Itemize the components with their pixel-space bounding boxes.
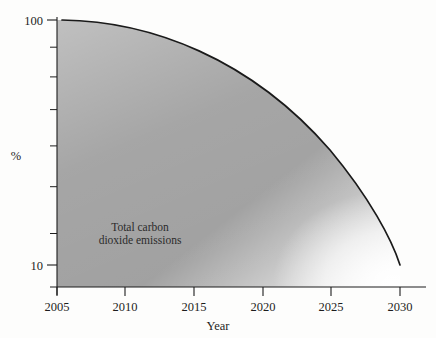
series-annotation-line2: dioxide emissions [99,234,182,246]
x-tick-label-2020: 2020 [251,300,276,314]
x-tick-label-2025: 2025 [319,300,344,314]
area-fill-corner-fade [57,20,400,287]
x-tick-label-2030: 2030 [388,300,413,314]
chart-container: 100 10 2005 2010 2015 2020 2025 2030 % Y… [0,0,436,338]
x-axis-title: Year [206,319,230,333]
x-tick-label-2015: 2015 [182,300,207,314]
x-axis-ticks [57,287,400,296]
emissions-area-chart: 100 10 2005 2010 2015 2020 2025 2030 % Y… [0,0,436,338]
y-tick-label-100: 100 [24,14,43,28]
area-fill [57,20,400,287]
x-tick-label-2010: 2010 [113,300,138,314]
x-tick-label-2005: 2005 [45,300,70,314]
y-tick-label-10: 10 [31,259,44,273]
series-annotation-line1: Total carbon [111,221,169,233]
y-axis-title: % [11,149,21,163]
y-axis-major-ticks [47,20,57,265]
y-axis-minor-ticks [50,47,57,288]
